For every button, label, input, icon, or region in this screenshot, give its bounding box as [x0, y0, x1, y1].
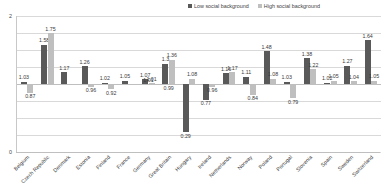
bar-value-label: 0.96 [207, 87, 217, 93]
bar-high [310, 69, 316, 84]
bar-high [351, 81, 357, 84]
bar-chart: Low social background High social backgr… [0, 0, 384, 190]
bar-value-label: 1.03 [19, 74, 29, 80]
bar-high [149, 83, 155, 84]
bar-high [270, 79, 276, 84]
bar-low [21, 82, 27, 84]
bar-group: 1.381.22 [300, 16, 320, 152]
bar-value-label: 1.38 [302, 51, 312, 57]
bar-low [162, 64, 168, 84]
bar-group: 1.260.96 [78, 16, 98, 152]
bar-low [41, 45, 47, 84]
bar-high [68, 84, 74, 85]
bar-value-label: 1.27 [342, 58, 352, 64]
bar-high [229, 72, 235, 84]
x-axis-label: Ireland [197, 154, 213, 170]
bar-low [183, 84, 189, 132]
bar-high [169, 60, 175, 84]
x-label-cell: Poland [259, 153, 279, 190]
bar-low [243, 77, 249, 84]
x-label-cell: Spain [319, 153, 339, 190]
bar-value-label: 1.48 [261, 44, 271, 50]
bar-low [284, 82, 290, 84]
bar-value-label: 1.17 [227, 65, 237, 71]
bar-value-label-extra: 0.99 [163, 85, 173, 91]
bar-high [48, 33, 54, 84]
bar-groups: 1.030.871.581.751.171.260.961.020.921.05… [17, 16, 381, 152]
bar-low [82, 66, 88, 84]
y-tick-label-bottom: 0 [0, 149, 12, 155]
x-label-cell: Hungary [178, 153, 198, 190]
x-axis-label: Spain [320, 154, 334, 168]
plot-area: 1.030.871.581.751.171.260.961.020.921.05… [16, 16, 381, 152]
x-axis-label: Poland [257, 154, 273, 170]
x-label-cell: Norway [238, 153, 258, 190]
x-axis-label: Sweden [336, 154, 354, 172]
bar-value-label: 1.75 [45, 26, 55, 32]
bar-value-label: 1.05 [328, 73, 338, 79]
legend-swatch-high [258, 4, 262, 8]
bar-high [128, 84, 134, 85]
x-label-cell: Netherlands [218, 153, 238, 190]
bar-high [27, 84, 33, 93]
legend-item-low: Low social background [188, 3, 249, 9]
bar-group: 1.31.360.99 [159, 16, 179, 152]
bar-group: 1.021.05 [320, 16, 340, 152]
x-label-cell: Finland [97, 153, 117, 190]
x-label-cell: Great Britain [158, 153, 178, 190]
x-label-cell: Estonia [77, 153, 97, 190]
bar-group: 1.071.011.01 [138, 16, 158, 152]
bar-value-label: 1.05 [369, 73, 379, 79]
bar-low [61, 72, 67, 84]
bar-group: 1.271.04 [341, 16, 361, 152]
legend-label-low: Low social background [194, 3, 249, 9]
bar-low [264, 51, 270, 84]
bar-low [324, 83, 330, 84]
bar-value-label: 1.02 [100, 75, 110, 81]
bar-group: 1.581.75 [37, 16, 57, 152]
bar-value-label: 0.87 [25, 93, 35, 99]
bar-group: 0.770.96 [199, 16, 219, 152]
y-tick-label-top: 2 [0, 13, 12, 19]
bar-value-label: 1.17 [59, 65, 69, 71]
bar-value-label: 0.29 [181, 133, 191, 139]
bar-value-label-extra: 1.01 [143, 77, 153, 83]
bar-value-label: 1.11 [241, 69, 251, 75]
bar-value-label: 0.77 [201, 100, 211, 106]
legend-item-high: High social background [258, 3, 320, 9]
bar-group: 1.17 [57, 16, 77, 152]
x-label-cell: Denmark [56, 153, 76, 190]
x-axis-label: Belgium [13, 154, 31, 172]
legend-swatch-low [188, 4, 192, 8]
bar-value-label: 0.84 [248, 95, 258, 101]
bar-high [290, 84, 296, 98]
bar-value-label: 1.05 [120, 73, 130, 79]
bar-value-label: 0.92 [106, 90, 116, 96]
bar-value-label: 1.64 [362, 33, 372, 39]
bar-value-label: 1.08 [268, 71, 278, 77]
bar-group: 1.05 [118, 16, 138, 152]
x-axis-label: Norway [236, 154, 253, 171]
chart-legend: Low social background High social backgr… [188, 3, 320, 9]
x-axis-label: Estonia [74, 154, 91, 171]
bar-high [189, 79, 195, 84]
bar-group: 1.641.05 [361, 16, 381, 152]
bar-group: 1.481.08 [260, 16, 280, 152]
x-label-cell: Switzerland [360, 153, 380, 190]
bar-value-label: 1.26 [79, 59, 89, 65]
legend-label-high: High social background [264, 3, 320, 9]
bar-group: 0.291.08 [179, 16, 199, 152]
bar-value-label: 1.36 [167, 52, 177, 58]
bar-low [102, 83, 108, 84]
bar-value-label: 0.96 [86, 87, 96, 93]
x-axis-label: Finland [95, 154, 112, 171]
x-axis-labels: BelgiumCzech RepublicDenmarkEstoniaFinla… [16, 153, 380, 190]
bar-high [250, 84, 256, 95]
bar-value-label: 1.08 [187, 71, 197, 77]
bar-low [223, 73, 229, 84]
bar-group: 1.030.87 [17, 16, 37, 152]
bar-value-label: 1.22 [308, 62, 318, 68]
bar-low [122, 81, 128, 84]
bar-high [108, 84, 114, 89]
bar-group: 1.020.92 [98, 16, 118, 152]
